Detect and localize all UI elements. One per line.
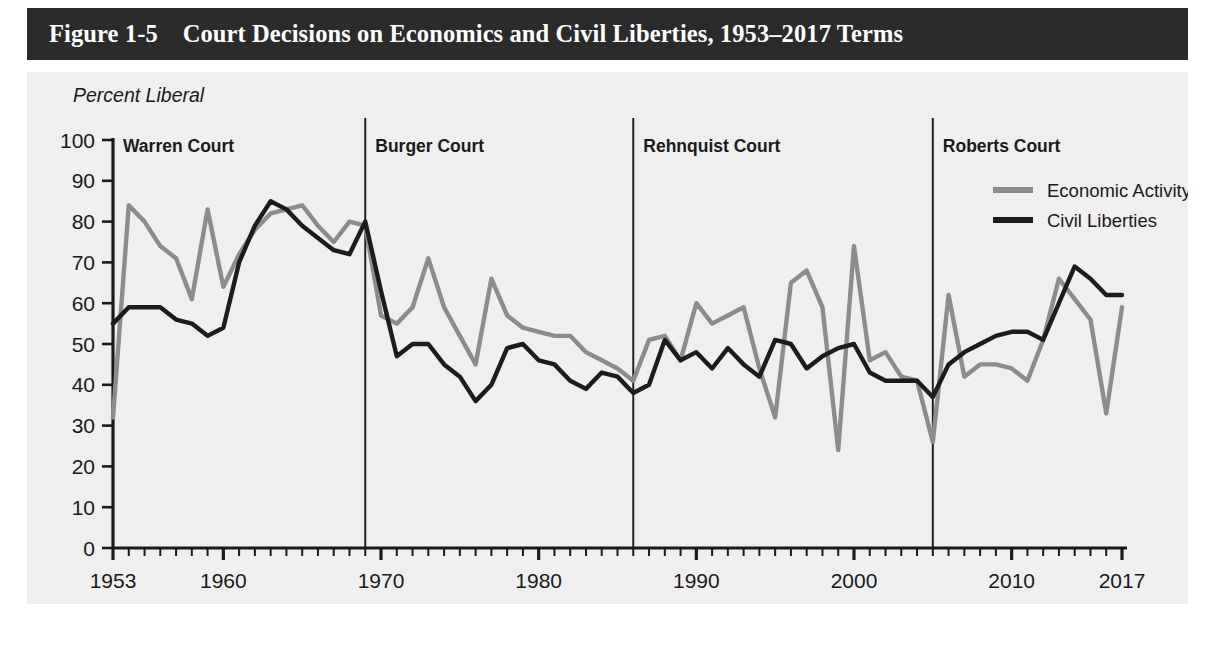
era-label: Roberts Court: [943, 136, 1061, 156]
y-axis-tick-label: 0: [83, 537, 95, 560]
era-label: Burger Court: [375, 136, 484, 156]
y-axis-note: Percent Liberal: [73, 84, 205, 106]
x-axis-tick-label: 2000: [831, 569, 878, 592]
y-axis-tick-label: 100: [60, 129, 95, 152]
y-axis-tick-label: 10: [72, 496, 95, 519]
y-axis-tick-label: 40: [72, 373, 95, 396]
y-axis-tick-label: 90: [72, 169, 95, 192]
legend-label-civil-liberties: Civil Liberties: [1047, 210, 1157, 231]
x-axis-tick-label: 1953: [90, 569, 137, 592]
y-axis-tick-label: 20: [72, 455, 95, 478]
chart-panel: Percent Liberal0102030405060708090100195…: [27, 72, 1188, 604]
x-axis-tick-label: 1990: [673, 569, 720, 592]
x-axis-tick-label: 1980: [515, 569, 562, 592]
era-label: Warren Court: [123, 136, 234, 156]
x-axis-tick-label: 1960: [200, 569, 247, 592]
figure-title-bar: Figure 1-5 Court Decisions on Economics …: [27, 8, 1188, 60]
legend-label-economic-activity: Economic Activity: [1047, 180, 1188, 201]
x-axis-title: Term: [615, 603, 660, 604]
figure-container: Figure 1-5 Court Decisions on Economics …: [0, 0, 1215, 650]
series-line-economic-activity: [113, 205, 1122, 450]
x-axis-tick-label: 2017: [1099, 569, 1146, 592]
line-chart: Percent Liberal0102030405060708090100195…: [27, 72, 1188, 604]
y-axis-tick-label: 30: [72, 414, 95, 437]
figure-title: Figure 1-5 Court Decisions on Economics …: [27, 20, 903, 48]
x-axis-tick-label: 2010: [988, 569, 1035, 592]
era-label: Rehnquist Court: [643, 136, 780, 156]
x-axis-tick-label: 1970: [358, 569, 405, 592]
y-axis-tick-label: 50: [72, 333, 95, 356]
y-axis-tick-label: 70: [72, 251, 95, 274]
y-axis-tick-label: 60: [72, 292, 95, 315]
y-axis-tick-label: 80: [72, 210, 95, 233]
